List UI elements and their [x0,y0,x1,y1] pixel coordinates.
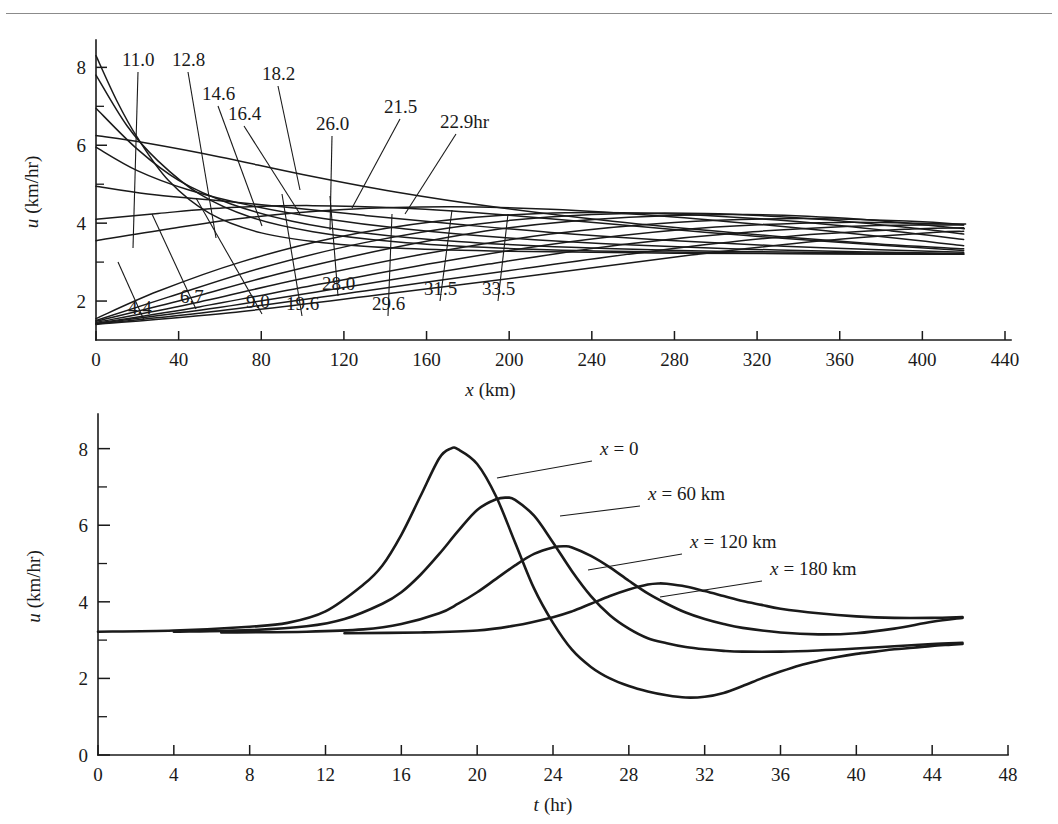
top-series-label: 9.0 [246,291,270,312]
bottom-x-tick-label: 20 [468,764,487,785]
top-series-label: 21.5 [384,96,417,117]
top-series-label: 12.8 [172,49,205,70]
bottom-series-label: x= 120 km [689,531,777,552]
top-x-tick-label: 240 [578,349,607,370]
top-series-label: 26.0 [316,113,349,134]
top-leader-line [278,86,300,190]
top-series-label: 31.5 [424,278,457,299]
top-x-tick-label: 120 [330,349,359,370]
top-x-tick-label: 400 [908,349,937,370]
bottom-curve-x___180_km [344,583,962,633]
bottom-axes: 0481216202428323640444802468 [79,414,1018,785]
bottom-x-tick-label: 36 [771,764,790,785]
bottom-x-tick-label: 28 [619,764,638,785]
top-x-tick-label: 360 [825,349,854,370]
bottom-x-tick-label: 0 [93,764,103,785]
chart-bottom-svg: 0481216202428323640444802468t(hr)u(km/hr… [0,390,1058,810]
page-header-rule [6,13,1052,14]
bottom-series-label: x= 180 km [769,558,857,579]
bottom-x-axis-label: t(hr) [534,794,573,816]
top-x-tick-label: 280 [660,349,689,370]
top-series-label: 6.7 [180,286,204,307]
bottom-x-tick-label: 44 [923,764,943,785]
top-series-label: 29.6 [372,293,405,314]
top-x-tick-label: 160 [412,349,441,370]
top-curve-28_0 [96,222,966,323]
bottom-axis-titles: t(hr)u(km/hr) [23,550,572,816]
bottom-y-tick-label: 0 [79,745,89,766]
top-series-label: 22.9hr [440,111,490,132]
bottom-leader-line [660,581,762,597]
bottom-y-tick-label: 2 [79,668,89,689]
bottom-x-tick-label: 24 [544,764,564,785]
top-x-tick-label: 80 [252,349,271,370]
top-y-tick-label: 4 [77,213,87,234]
bottom-y-tick-label: 8 [79,439,89,460]
top-series-label: 18.2 [262,63,295,84]
top-y-tick-label: 2 [77,291,87,312]
top-curve-11_0 [96,147,964,253]
bottom-series-label: x= 60 km [647,483,725,504]
top-y-tick-label: 6 [77,135,87,156]
top-series-label: 14.6 [202,83,235,104]
top-series-labels: 4.46.79.011.012.814.616.418.219.621.522.… [118,49,515,320]
top-x-tick-label: 320 [743,349,772,370]
top-y-tick-label: 8 [77,57,87,78]
top-x-tick-label: 440 [991,349,1020,370]
bottom-series-labels: x= 0x= 60 kmx= 120 kmx= 180 km [497,438,857,597]
bottom-x-tick-label: 48 [999,764,1018,785]
chart-top-u-vs-x: 040801201602002402803203604004402468x(km… [0,18,1058,378]
top-leader-line [133,72,138,248]
top-leader-line [405,134,456,214]
figure-page: 040801201602002402803203604004402468x(km… [0,0,1058,824]
bottom-y-tick-label: 4 [79,592,89,613]
top-x-tick-label: 40 [169,349,188,370]
bottom-x-tick-label: 4 [169,764,179,785]
bottom-leader-line [497,461,592,478]
top-y-axis-label: u(km/hr) [21,156,43,229]
top-series-label: 16.4 [228,103,262,124]
bottom-x-tick-label: 40 [847,764,866,785]
top-series-label: 28.0 [322,273,355,294]
bottom-y-tick-label: 6 [79,515,89,536]
bottom-x-tick-label: 12 [316,764,335,785]
bottom-y-axis-label: u(km/hr) [23,550,45,623]
bottom-x-tick-label: 32 [695,764,714,785]
bottom-series-label: x= 0 [599,438,638,459]
top-series-label: 19.6 [286,293,319,314]
top-series-label: 11.0 [122,49,155,70]
chart-top-svg: 040801201602002402803203604004402468x(km… [0,18,1058,378]
top-series-label: 33.5 [482,278,515,299]
top-series-label: 4.4 [128,297,152,318]
bottom-x-tick-label: 8 [245,764,255,785]
bottom-x-tick-label: 16 [392,764,411,785]
top-x-tick-label: 0 [91,349,101,370]
chart-bottom-u-vs-t: 0481216202428323640444802468t(hr)u(km/hr… [0,390,1058,810]
bottom-leader-line [560,506,640,516]
top-leader-line [352,119,400,208]
top-x-tick-label: 200 [495,349,524,370]
